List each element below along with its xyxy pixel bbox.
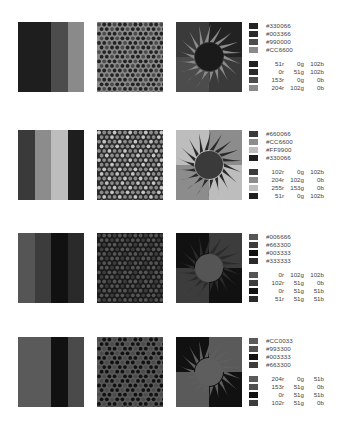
red-value: 204r <box>266 176 284 184</box>
palette-group: #CC0033#993300#003333#663300204r0g51b153… <box>0 337 341 409</box>
palette-group: #330066#003366#990000#CC660051r0g102b0r5… <box>0 22 341 94</box>
green-value: 0g <box>284 76 304 84</box>
rgb-row: 102r51g0b <box>249 279 341 287</box>
red-value: 153r <box>266 383 284 391</box>
red-value: 0r <box>266 287 284 295</box>
color-chip <box>249 384 258 390</box>
green-value: 102g <box>284 84 304 92</box>
hex-row: #CC6600 <box>249 46 341 54</box>
hex-value: #CC0033 <box>266 337 293 345</box>
stripe <box>35 233 52 303</box>
stripe <box>68 22 85 92</box>
green-value: 51g <box>284 68 304 76</box>
color-chip <box>249 139 258 145</box>
color-chip <box>249 376 258 382</box>
stripe <box>18 130 35 200</box>
color-chip <box>249 23 258 29</box>
color-chip <box>249 250 258 256</box>
color-chip <box>249 69 258 75</box>
red-value: 51r <box>266 192 284 200</box>
stripe <box>35 337 52 407</box>
red-value: 0r <box>266 391 284 399</box>
hex-row: #CC0033 <box>249 337 341 345</box>
rgb-row: 51r51g51b <box>249 295 341 303</box>
blue-value: 0b <box>304 399 324 407</box>
rgb-row: 0r51g51b <box>249 391 341 399</box>
blue-value: 51b <box>304 287 324 295</box>
blue-value: 102b <box>304 60 324 68</box>
rgb-row: 0r51g102b <box>249 68 341 76</box>
dot-pattern-swatch <box>97 233 163 303</box>
color-chip <box>249 338 258 344</box>
color-chip <box>249 193 258 199</box>
color-chip <box>249 85 258 91</box>
color-chip <box>249 155 258 161</box>
rgb-row: 51r0g102b <box>249 192 341 200</box>
blue-value: 0b <box>304 76 324 84</box>
hex-value: #330066 <box>266 22 291 30</box>
green-value: 102g <box>284 271 304 279</box>
blue-value: 102b <box>304 68 324 76</box>
blue-value: 0b <box>304 176 324 184</box>
blue-value: 102b <box>304 271 324 279</box>
dot-pattern-swatch <box>97 130 163 200</box>
hex-value: #003333 <box>266 249 291 257</box>
blue-value: 51b <box>304 375 324 383</box>
stripe-swatch <box>18 337 84 407</box>
color-chip <box>249 31 258 37</box>
stripe-swatch <box>18 130 84 200</box>
hex-row: #003333 <box>249 249 341 257</box>
sun-illustration <box>176 233 242 303</box>
hex-value: #333333 <box>266 257 291 265</box>
hex-row: #003333 <box>249 353 341 361</box>
color-chip <box>249 354 258 360</box>
blue-value: 0b <box>304 84 324 92</box>
red-value: 102r <box>266 168 284 176</box>
blue-value: 0b <box>304 184 324 192</box>
red-value: 102r <box>266 399 284 407</box>
color-chip <box>249 131 258 137</box>
hex-row: #990000 <box>249 38 341 46</box>
hex-value: #FF9900 <box>266 146 291 154</box>
red-value: 0r <box>266 68 284 76</box>
color-legend: #CC0033#993300#003333#663300204r0g51b153… <box>249 337 341 407</box>
hex-value: #660066 <box>266 130 291 138</box>
stripe <box>68 130 85 200</box>
hex-value: #CC6600 <box>266 46 293 54</box>
hex-value: #990000 <box>266 38 291 46</box>
rgb-row: 204r0g51b <box>249 375 341 383</box>
blue-value: 51b <box>304 391 324 399</box>
rgb-row: 153r0g0b <box>249 76 341 84</box>
red-value: 102r <box>266 279 284 287</box>
color-legend: #006666#663300#003333#3333330r102g102b10… <box>249 233 341 303</box>
red-value: 51r <box>266 60 284 68</box>
rgb-row: 51r0g102b <box>249 60 341 68</box>
hex-row: #330066 <box>249 154 341 162</box>
color-legend: #660066#CC6600#FF9900#330066102r0g102b20… <box>249 130 341 200</box>
stripe <box>35 22 52 92</box>
palette-group: #660066#CC6600#FF9900#330066102r0g102b20… <box>0 130 341 202</box>
red-value: 51r <box>266 295 284 303</box>
rgb-row: 255r153g0b <box>249 184 341 192</box>
green-value: 51g <box>284 279 304 287</box>
green-value: 0g <box>284 192 304 200</box>
red-value: 204r <box>266 84 284 92</box>
rgb-row: 204r102g0b <box>249 84 341 92</box>
green-value: 51g <box>284 383 304 391</box>
green-value: 102g <box>284 176 304 184</box>
green-value: 0g <box>284 168 304 176</box>
color-chip <box>249 346 258 352</box>
rgb-row: 204r102g0b <box>249 176 341 184</box>
green-value: 51g <box>284 391 304 399</box>
hex-row: #FF9900 <box>249 146 341 154</box>
sun-illustration <box>176 22 242 92</box>
stripe <box>68 233 85 303</box>
blue-value: 102b <box>304 168 324 176</box>
hex-row: #660066 <box>249 130 341 138</box>
color-chip <box>249 39 258 45</box>
stripe <box>18 337 35 407</box>
hex-row: #993300 <box>249 345 341 353</box>
color-chip <box>249 242 258 248</box>
sun-illustration <box>176 337 242 407</box>
rgb-row: 102r0g102b <box>249 168 341 176</box>
